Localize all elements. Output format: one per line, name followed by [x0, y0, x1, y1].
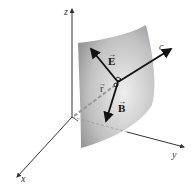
b-arrow: → [118, 97, 126, 106]
x-axis [17, 117, 72, 177]
r-projection [72, 117, 78, 121]
x-axis-label: x [20, 173, 26, 184]
y-axis [127, 132, 184, 147]
y-axis-label: y [171, 149, 177, 160]
wavefront-diagram: z x y r → E → B → c [0, 0, 191, 187]
z-axis-label: z [63, 6, 68, 17]
c-label: c [159, 41, 164, 52]
r-arrow: → [99, 80, 106, 88]
e-arrow: → [108, 50, 116, 59]
